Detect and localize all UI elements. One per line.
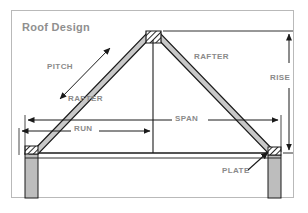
right-plate — [268, 147, 281, 155]
rafter-left-label: RAFTER — [68, 95, 103, 103]
span-label: SPAN — [175, 115, 198, 123]
rise-label: RISE — [270, 74, 290, 82]
pitch-dimension — [60, 48, 110, 99]
left-plate — [25, 146, 38, 154]
rise-dimension — [163, 31, 293, 153]
roof-design-diagram-page: Roof Design PITCH RAFTER RAFTER RISE SPA… — [0, 0, 308, 213]
left-wall — [25, 153, 38, 198]
plate-leader-arrow — [248, 152, 268, 170]
plate-label: PLATE — [222, 167, 250, 175]
page-title: Roof Design — [22, 22, 90, 33]
ceiling-joist — [25, 153, 281, 158]
right-wall — [268, 155, 281, 198]
pitch-label: PITCH — [47, 63, 73, 71]
rafter-right-label: RAFTER — [194, 53, 229, 61]
run-label: RUN — [74, 125, 93, 133]
